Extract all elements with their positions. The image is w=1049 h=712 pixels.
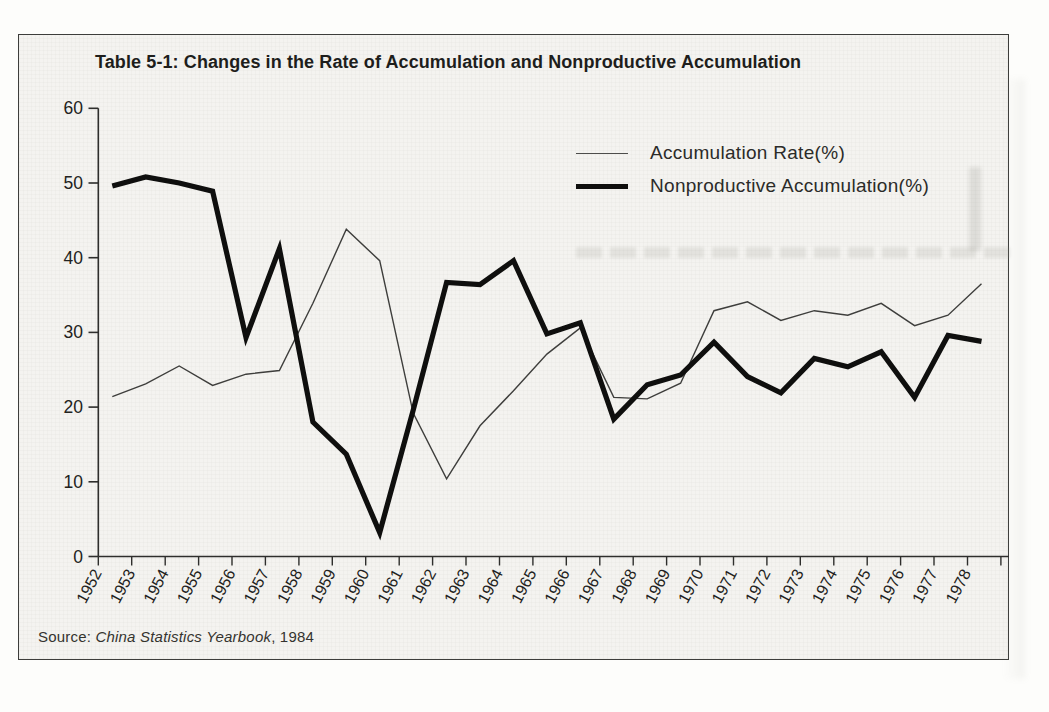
chart-title: Table 5-1: Changes in the Rate of Accumu… — [95, 52, 801, 73]
scan-smudge-vertical — [969, 167, 981, 251]
thick-line-swatch — [576, 184, 628, 189]
source-note: Source: China Statistics Yearbook, 1984 — [38, 628, 314, 645]
scan-smudge-horizontal — [576, 247, 1016, 258]
chart-legend: Accumulation Rate(%) Nonproductive Accum… — [576, 140, 929, 199]
scan-shading-right-edge — [1003, 79, 1025, 679]
legend-label: Nonproductive Accumulation(%) — [650, 175, 929, 197]
source-suffix: , 1984 — [271, 628, 314, 645]
source-work-title: China Statistics Yearbook — [95, 628, 271, 645]
source-prefix: Source: — [38, 628, 95, 645]
legend-item-nonproductive-accumulation: Nonproductive Accumulation(%) — [576, 173, 929, 199]
legend-item-accumulation-rate: Accumulation Rate(%) — [576, 140, 929, 166]
thin-line-swatch — [576, 153, 628, 154]
legend-label: Accumulation Rate(%) — [650, 142, 845, 164]
figure-border-box — [18, 34, 1009, 660]
scanned-book-page: Table 5-1: Changes in the Rate of Accumu… — [0, 0, 1049, 712]
